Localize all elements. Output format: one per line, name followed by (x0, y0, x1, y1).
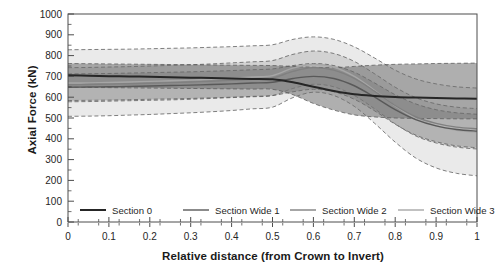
x-tick-label: 0.7 (347, 231, 361, 242)
y-tick-label: 800 (45, 50, 62, 61)
x-tick-label: 0.6 (306, 231, 320, 242)
x-tick-label: 0.2 (143, 231, 157, 242)
x-tick-label: 0.9 (429, 231, 443, 242)
y-tick-label: 600 (45, 92, 62, 103)
y-tick-label: 300 (45, 154, 62, 165)
y-tick-label: 0 (56, 217, 62, 228)
legend-label-1: Section Wide 1 (215, 205, 280, 216)
y-tick-label: 100 (45, 196, 62, 207)
y-tick-label: 700 (45, 71, 62, 82)
y-tick-label: 400 (45, 133, 62, 144)
x-tick-label: 0 (65, 231, 71, 242)
y-tick-label: 200 (45, 175, 62, 186)
chart-figure: Axial Force (kN) Relative distance (from… (0, 0, 495, 279)
x-tick-label: 0.4 (225, 231, 239, 242)
x-tick-label: 0.8 (388, 231, 402, 242)
legend-label-0: Section 0 (112, 205, 152, 216)
plot-area: 01002003004005006007008009001000 00.10.2… (0, 0, 495, 279)
legend-label-2: Section Wide 2 (322, 205, 387, 216)
y-tick-label: 1000 (40, 9, 63, 20)
x-tick-label: 0.3 (184, 231, 198, 242)
y-tick-label: 900 (45, 29, 62, 40)
x-tick-label: 0.1 (102, 231, 116, 242)
x-tick-label: 1 (474, 231, 480, 242)
x-tick-label: 0.5 (266, 231, 280, 242)
y-tick-label: 500 (45, 113, 62, 124)
legend-label-3: Section Wide 3 (430, 205, 495, 216)
